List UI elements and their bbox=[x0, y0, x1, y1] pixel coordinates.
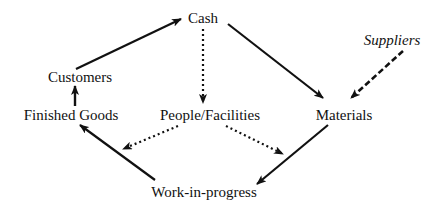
arrow-people-facilities-to-finished-goods bbox=[123, 126, 178, 149]
arrow-materials-to-wip bbox=[257, 125, 328, 184]
node-customers: Customers bbox=[48, 68, 112, 86]
arrow-suppliers-to-materials bbox=[351, 51, 403, 98]
node-finished-goods: Finished Goods bbox=[24, 106, 119, 124]
arrow-wip-to-finished-goods bbox=[80, 125, 155, 180]
node-work-in-progress: Work-in-progress bbox=[151, 183, 256, 201]
node-cash: Cash bbox=[188, 9, 218, 27]
arrow-people-facilities-to-wip bbox=[226, 126, 283, 154]
arrow-cash-to-materials bbox=[228, 24, 323, 98]
node-people-facilities: People/Facilities bbox=[160, 106, 260, 124]
node-suppliers: Suppliers bbox=[364, 31, 421, 49]
node-materials: Materials bbox=[316, 106, 373, 124]
cash-cycle-diagram: Cash Customers Finished Goods People/Fac… bbox=[0, 0, 443, 209]
arrow-customers-to-cash bbox=[76, 19, 181, 69]
